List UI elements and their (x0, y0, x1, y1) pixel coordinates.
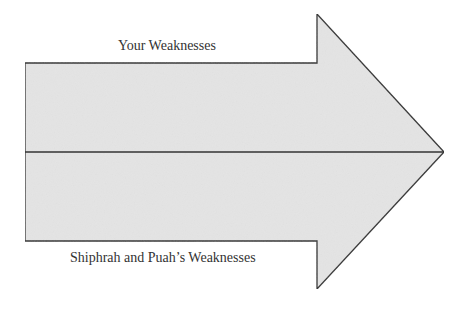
top-section-label: Your Weaknesses (118, 38, 216, 54)
bottom-section-label: Shiphrah and Puah’s Weaknesses (70, 250, 256, 266)
